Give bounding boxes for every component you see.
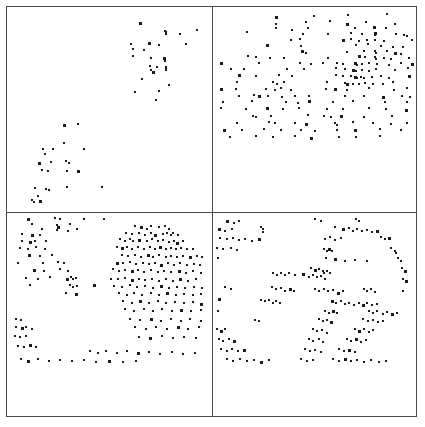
scatter-point	[283, 81, 285, 83]
scatter-point	[354, 351, 356, 353]
scatter-point	[27, 248, 29, 250]
scatter-point	[20, 319, 22, 321]
scatter-point	[145, 328, 147, 330]
scatter-point	[140, 226, 143, 229]
scatter-point	[358, 83, 360, 85]
scatter-point	[42, 262, 44, 264]
scatter-point	[305, 21, 307, 23]
scatter-point	[326, 108, 328, 110]
scatter-point	[370, 359, 372, 361]
scatter-point	[183, 293, 185, 295]
scatter-point	[232, 237, 234, 239]
scatter-point	[131, 248, 133, 250]
scatter-point	[168, 241, 170, 243]
scatter-point	[150, 225, 152, 227]
scatter-point	[134, 225, 136, 227]
scatter-point	[342, 290, 344, 292]
scatter-point	[301, 50, 304, 53]
scatter-point	[342, 108, 344, 110]
scatter-point	[329, 236, 331, 238]
scatter-point	[150, 292, 152, 294]
scatter-point	[149, 337, 152, 340]
scatter-point	[388, 77, 390, 79]
scatter-point	[388, 237, 391, 240]
scatter-point	[200, 293, 202, 295]
scatter-point	[324, 238, 326, 240]
scatter-point	[403, 34, 405, 36]
scatter-point	[136, 286, 138, 288]
scatter-point	[186, 248, 188, 250]
scatter-point	[299, 38, 301, 40]
scatter-point	[144, 234, 146, 236]
scatter-point	[173, 240, 175, 242]
scatter-point	[25, 277, 27, 279]
scatter-point	[151, 278, 153, 280]
scatter-point	[34, 187, 36, 189]
scatter-point	[344, 68, 346, 70]
scatter-point	[309, 350, 311, 352]
scatter-point	[216, 328, 218, 330]
scatter-point	[224, 286, 226, 288]
scatter-point	[49, 276, 51, 278]
scatter-point	[279, 302, 281, 304]
scatter-point	[147, 254, 150, 257]
scatter-point	[230, 247, 232, 249]
scatter-point	[152, 256, 154, 258]
scatter-point	[179, 33, 181, 35]
scatter-point	[33, 201, 35, 203]
scatter-point	[63, 262, 65, 264]
scatter-point	[363, 328, 365, 330]
scatter-point	[366, 229, 368, 231]
scatter-point	[218, 298, 221, 301]
scatter-point	[154, 234, 157, 237]
scatter-point	[14, 335, 16, 337]
scatter-point	[137, 246, 139, 248]
scatter-point	[157, 240, 159, 242]
scatter-point	[411, 39, 413, 41]
scatter-point	[165, 256, 167, 258]
scatter-point	[44, 153, 46, 155]
scatter-point	[355, 338, 358, 341]
scatter-point	[367, 320, 369, 322]
scatter-point	[125, 232, 127, 234]
scatter-point	[375, 68, 377, 70]
scatter-point	[258, 62, 260, 64]
scatter-point	[148, 263, 150, 265]
scatter-point	[334, 88, 337, 91]
scatter-point	[223, 129, 226, 132]
scatter-point	[290, 89, 292, 91]
scatter-point	[280, 272, 282, 274]
scatter-point	[21, 327, 24, 330]
scatter-point	[396, 312, 398, 314]
scatter-point	[138, 239, 141, 242]
scatter-point	[244, 238, 246, 240]
scatter-point	[302, 273, 305, 276]
scatter-point	[170, 255, 172, 257]
scatter-point	[385, 27, 387, 29]
scatter-point	[280, 287, 282, 289]
scatter-point	[108, 360, 111, 363]
scatter-point	[382, 313, 384, 315]
scatter-point	[338, 348, 340, 350]
scatter-point	[161, 308, 163, 310]
scatter-point	[350, 360, 352, 362]
scatter-point	[255, 135, 257, 137]
scatter-point	[406, 87, 408, 89]
scatter-point	[302, 33, 304, 35]
scatter-point	[198, 326, 200, 328]
scatter-point	[152, 310, 154, 312]
scatter-point	[157, 300, 159, 302]
scatter-point	[336, 124, 338, 126]
scatter-point	[75, 293, 78, 296]
scatter-point	[348, 227, 350, 229]
scatter-point	[160, 320, 162, 322]
scatter-point	[238, 239, 240, 241]
scatter-point	[76, 285, 78, 287]
scatter-point	[368, 310, 370, 312]
scatter-point	[39, 234, 41, 236]
scatter-point	[72, 286, 74, 288]
scatter-point	[326, 319, 328, 321]
scatter-point	[335, 302, 337, 304]
scatter-point	[183, 336, 185, 338]
scatter-point	[380, 236, 382, 238]
